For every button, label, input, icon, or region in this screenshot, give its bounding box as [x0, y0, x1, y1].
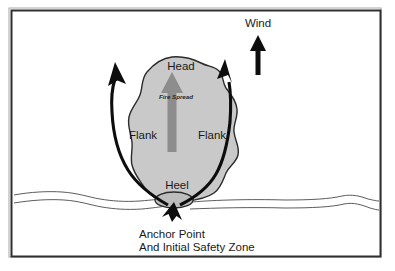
- flank-label-right: Flank: [198, 129, 226, 141]
- wind-label: Wind: [245, 17, 271, 29]
- wildfire-diagram: Wind Head Fire Spread Flank Flank Heel A…: [0, 0, 395, 271]
- flank-label-left: Flank: [129, 129, 157, 141]
- anchor-point-label-line2: And Initial Safety Zone: [139, 241, 255, 253]
- diagram-canvas: Wind Head Fire Spread Flank Flank Heel A…: [0, 0, 395, 271]
- left-flank-arrow-head-icon: [108, 62, 126, 86]
- wind-arrow-icon: [250, 35, 266, 75]
- terrain-line-lower-right: [190, 203, 379, 210]
- anchor-point-label-line1: Anchor Point: [139, 228, 206, 240]
- terrain-line-upper-right: [192, 195, 379, 202]
- fire-spread-label: Fire Spread: [159, 93, 193, 100]
- head-label: Head: [167, 60, 195, 72]
- heel-label: Heel: [165, 179, 189, 191]
